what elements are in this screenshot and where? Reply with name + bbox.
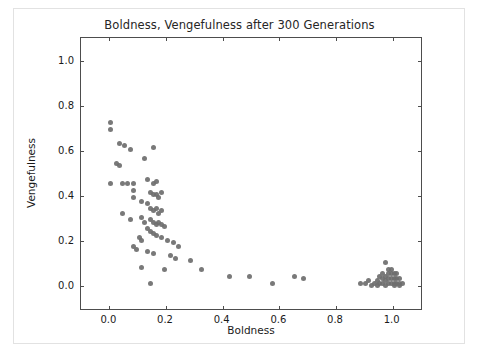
scatter-point: [397, 283, 402, 288]
figure: Boldness, Vengefulness after 300 Generat…: [0, 0, 479, 353]
y-axis-tick: [80, 61, 84, 62]
scatter-point: [128, 147, 133, 152]
y-axis-tick: [80, 286, 84, 287]
scatter-point: [108, 127, 113, 132]
x-axis-tick: [336, 306, 337, 310]
y-axis-tick-right: [418, 241, 422, 242]
scatter-point: [122, 143, 127, 148]
scatter-point: [139, 265, 144, 270]
scatter-point: [369, 283, 374, 288]
y-axis-tick-label: 1.0: [47, 54, 74, 65]
x-axis-tick-top: [223, 37, 224, 41]
x-axis-label: Boldness: [80, 324, 422, 336]
y-axis-tick-label: 0.2: [47, 235, 74, 246]
x-axis-tick: [109, 306, 110, 310]
scatter-point: [392, 283, 397, 288]
scatter-point: [108, 181, 113, 186]
y-axis-tick-label: 0.4: [47, 190, 74, 201]
y-axis-tick-right: [418, 196, 422, 197]
y-axis-tick: [80, 151, 84, 152]
y-axis-tick-right: [418, 106, 422, 107]
scatter-point: [117, 141, 122, 146]
x-axis-tick: [393, 306, 394, 310]
scatter-point: [227, 274, 232, 279]
y-axis-tick-label: 0.8: [47, 99, 74, 110]
scatter-point: [159, 235, 164, 240]
scatter-point: [301, 276, 306, 281]
y-axis-tick: [80, 196, 84, 197]
scatter-point: [131, 195, 136, 200]
scatter-point: [162, 224, 167, 229]
x-axis-tick-top: [109, 37, 110, 41]
scatter-point: [131, 188, 136, 193]
y-axis-tick-label: 0.0: [47, 280, 74, 291]
scatter-point: [247, 274, 252, 279]
scatter-point: [165, 238, 170, 243]
y-axis-tick: [80, 106, 84, 107]
scatter-point: [159, 190, 164, 195]
x-axis-tick-top: [166, 37, 167, 41]
scatter-point: [142, 156, 147, 161]
scatter-point: [128, 217, 133, 222]
scatter-point: [125, 181, 130, 186]
scatter-point: [168, 253, 173, 258]
scatter-point: [139, 238, 144, 243]
scatter-point: [270, 281, 275, 286]
y-axis-tick-right: [418, 286, 422, 287]
scatter-point: [173, 256, 178, 261]
scatter-point: [139, 199, 144, 204]
scatter-point: [292, 274, 297, 279]
y-axis-tick: [80, 241, 84, 242]
page-title: Boldness, Vengefulness after 300 Generat…: [0, 18, 479, 32]
y-axis-tick-label: 0.6: [47, 144, 74, 155]
scatter-point: [176, 244, 181, 249]
scatter-point: [383, 283, 388, 288]
scatter-point: [154, 179, 159, 184]
scatter-points-layer: [81, 38, 421, 309]
plot-area: [80, 37, 422, 310]
scatter-point: [142, 220, 147, 225]
scatter-point: [120, 181, 125, 186]
scatter-point: [108, 120, 113, 125]
scatter-point: [145, 249, 150, 254]
scatter-point: [188, 258, 193, 263]
scatter-point: [375, 283, 380, 288]
scatter-point: [120, 211, 125, 216]
y-axis-tick-right: [418, 151, 422, 152]
scatter-point: [134, 247, 139, 252]
scatter-point: [151, 251, 156, 256]
scatter-point: [358, 281, 363, 286]
scatter-point: [148, 281, 153, 286]
y-axis-tick-right: [418, 61, 422, 62]
scatter-point: [171, 240, 176, 245]
scatter-point: [151, 145, 156, 150]
y-axis-label: Vengefulness: [25, 138, 37, 208]
scatter-point: [159, 208, 164, 213]
x-axis-tick-top: [336, 37, 337, 41]
scatter-point: [199, 267, 204, 272]
scatter-point: [117, 163, 122, 168]
scatter-point: [162, 267, 167, 272]
scatter-point: [131, 181, 136, 186]
x-axis-tick-top: [393, 37, 394, 41]
scatter-point: [383, 260, 388, 265]
x-axis-tick: [279, 306, 280, 310]
x-axis-tick: [223, 306, 224, 310]
scatter-point: [145, 177, 150, 182]
scatter-point: [154, 233, 159, 238]
x-axis-tick: [166, 306, 167, 310]
x-axis-tick-top: [279, 37, 280, 41]
scatter-point: [156, 195, 161, 200]
